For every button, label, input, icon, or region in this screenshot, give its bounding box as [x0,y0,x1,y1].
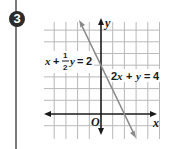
svg-text:=: = [144,70,150,82]
svg-text:=: = [77,55,83,67]
svg-text:x: x [44,55,51,67]
y-axis-down-arrow-icon [98,128,104,135]
y-axis-up-arrow-icon [98,18,104,25]
problem-panel: 3 [0,0,169,149]
fraction-numerator: 1 [63,51,68,60]
coordinate-graph: y x O x + 1 2 y = 2 2 x + y = 4 [0,0,169,149]
x-axis-label: x [152,116,159,130]
svg-text:+: + [53,55,59,67]
svg-text:+: + [126,70,132,82]
svg-text:y: y [134,70,141,82]
svg-text:y: y [68,55,75,67]
y-axis-label: y [103,16,111,30]
svg-text:x: x [116,70,123,82]
svg-text:4: 4 [153,70,160,82]
line-top-arrow-icon [79,20,85,28]
origin-label: O [91,115,100,129]
line-bottom-arrow-icon [130,131,136,139]
equation-2-label: 2 x + y = 4 [111,70,160,82]
fraction-denominator: 2 [63,63,68,72]
svg-text:2: 2 [86,55,92,67]
x-axis-left-arrow-icon [44,111,51,117]
